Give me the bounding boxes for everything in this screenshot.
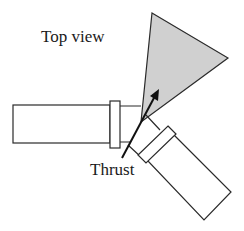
left-cylinder-collar <box>110 101 120 148</box>
diagram-canvas <box>0 0 244 231</box>
diagram-title: Top view <box>41 27 105 47</box>
thrust-label: Thrust <box>90 160 134 180</box>
left-cylinder-neck <box>120 106 141 142</box>
left-cylinder-body <box>13 105 110 143</box>
spray-cone <box>141 13 228 122</box>
